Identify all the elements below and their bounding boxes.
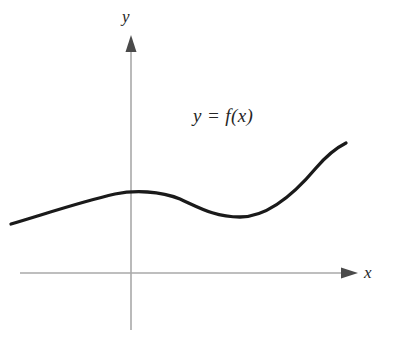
graph-canvas — [0, 0, 393, 348]
y-axis-arrow-icon — [126, 35, 137, 52]
function-equation-label: y = f(x) — [193, 105, 253, 127]
function-graph-figure: y x y = f(x) — [0, 0, 393, 348]
function-curve — [11, 143, 346, 224]
y-axis-label: y — [122, 8, 130, 25]
x-axis-arrow-icon — [341, 268, 358, 279]
x-axis-label: x — [364, 264, 372, 281]
